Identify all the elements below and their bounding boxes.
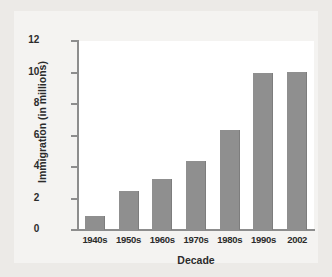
y-tick-label: 8 <box>0 97 39 108</box>
y-tick-label: 0 <box>0 223 39 234</box>
chart-panel: Immigration (in millions) 024681012 1940… <box>14 11 318 263</box>
y-tick-label: 12 <box>0 34 39 45</box>
bar-slot <box>152 179 172 230</box>
bar[interactable] <box>220 130 240 230</box>
y-tick <box>71 40 78 42</box>
y-tick-label: 2 <box>0 192 39 203</box>
y-tick <box>71 72 78 74</box>
chart-figure: Immigration (in millions) 024681012 1940… <box>0 0 332 277</box>
y-tick <box>71 166 78 168</box>
bar[interactable] <box>119 191 139 230</box>
bar-slot <box>253 73 273 231</box>
y-tick-label: 6 <box>0 129 39 140</box>
bar[interactable] <box>152 179 172 230</box>
y-tick <box>71 198 78 200</box>
y-tick <box>71 229 78 231</box>
bar-slot <box>287 72 307 230</box>
bar-slot <box>186 161 206 230</box>
x-tick-label: 2002 <box>275 234 319 245</box>
bar-slot <box>85 216 105 230</box>
y-tick <box>71 103 78 105</box>
bar[interactable] <box>253 73 273 231</box>
y-tick-label: 4 <box>0 160 39 171</box>
bar[interactable] <box>85 216 105 230</box>
bar[interactable] <box>186 161 206 230</box>
bar-series <box>78 41 314 230</box>
y-tick-label: 10 <box>0 66 39 77</box>
bar[interactable] <box>287 72 307 230</box>
y-tick <box>71 135 78 137</box>
x-axis-title: Decade <box>78 254 314 266</box>
bar-slot <box>119 191 139 230</box>
bar-slot <box>220 130 240 230</box>
